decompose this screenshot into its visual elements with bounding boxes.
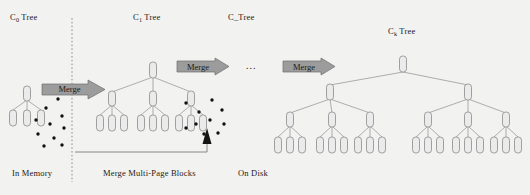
label-in-memory: In Memory bbox=[12, 168, 52, 178]
ellipsis-label: ... bbox=[246, 60, 257, 71]
tree-label-c1: C1 Tree bbox=[133, 12, 160, 22]
tree-label-c-dots: C_Tree bbox=[228, 12, 254, 22]
tree-label-c0: C0 Tree bbox=[10, 12, 37, 22]
label-on-disk: On Disk bbox=[238, 168, 268, 178]
merge-label-3: Merge bbox=[283, 62, 325, 72]
label-merge-multi-page-blocks: Merge Multi-Page Blocks bbox=[103, 168, 196, 178]
diagram-background bbox=[0, 0, 530, 195]
tree-label-ck: Ck Tree bbox=[388, 26, 415, 36]
merge-label-2: Merge bbox=[177, 62, 219, 72]
lsm-merge-diagram bbox=[0, 0, 530, 195]
merge-label-1: Merge bbox=[42, 84, 97, 94]
